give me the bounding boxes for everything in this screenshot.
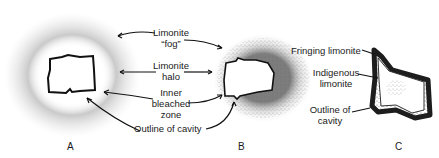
label-fringing-limonite: Fringing limonite — [291, 45, 361, 56]
label-limonite-fog: Limonite “fog” — [150, 27, 192, 49]
panel-label-c: C — [395, 141, 402, 152]
label-limonite-halo: Limonite halo — [150, 60, 192, 82]
panel-label-a: A — [67, 141, 74, 152]
panel-label-b: B — [238, 141, 245, 152]
label-outline-of-cavity-c: Outline of cavity — [305, 104, 355, 126]
panel-a-drawing — [4, 13, 140, 137]
label-inner-bleached-zone: Inner bleached zone — [150, 87, 192, 120]
cavity-outline-a — [48, 55, 95, 93]
label-outline-of-cavity-ab: Outline of cavity — [134, 123, 202, 134]
label-indigenous-limonite: Indigenous limonite — [311, 67, 361, 89]
diagram-canvas — [0, 0, 439, 158]
panel-c-drawing — [372, 50, 430, 118]
